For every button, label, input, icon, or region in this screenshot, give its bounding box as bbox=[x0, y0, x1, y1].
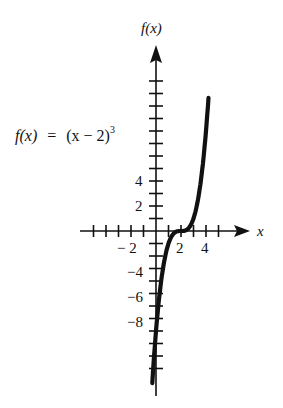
equation-lhs: f(x) bbox=[15, 127, 37, 144]
x-tick-label-neg2: − 2 bbox=[117, 241, 137, 256]
x-tick-label-4: 4 bbox=[201, 241, 209, 256]
equation-exponent: 3 bbox=[110, 124, 115, 135]
y-tick-label-4: 4 bbox=[135, 174, 143, 189]
x-axis-label: x bbox=[257, 224, 264, 239]
x-tick-label-2: 2 bbox=[176, 241, 184, 256]
y-tick-label-neg8: −8 bbox=[127, 315, 143, 330]
equation-equals: = bbox=[47, 127, 56, 144]
equation-rhs: (x − 2) bbox=[66, 127, 110, 144]
y-axis-label: f(x) bbox=[141, 21, 162, 36]
y-tick-label-neg6: −6 bbox=[127, 290, 143, 305]
y-tick-label-2: 2 bbox=[135, 199, 143, 214]
equation-annotation: f(x) = (x − 2)3 bbox=[15, 124, 115, 143]
y-tick-label-neg4: −4 bbox=[127, 265, 143, 280]
